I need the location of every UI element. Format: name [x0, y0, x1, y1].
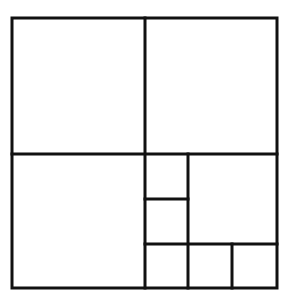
partitioned-square-diagram [0, 0, 300, 304]
